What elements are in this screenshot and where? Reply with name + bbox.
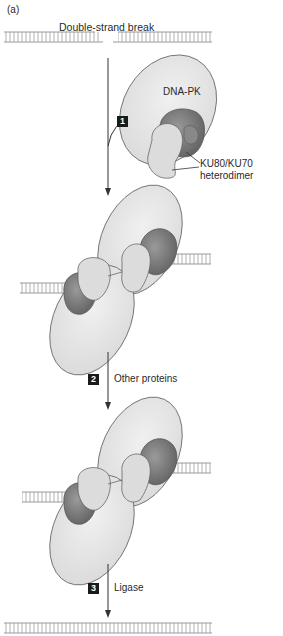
step-1-badge: 1: [117, 116, 128, 127]
step-3-badge: 3: [88, 583, 99, 594]
synapsis-complex-1: [20, 171, 211, 388]
ku-label-line2: heterodimer: [200, 170, 253, 181]
dna-broken-left: [4, 32, 103, 42]
step-2-badge: 2: [88, 374, 99, 385]
ku-label-line1: KU80/KU70: [200, 158, 253, 169]
dna-broken-right: [113, 32, 212, 42]
step-2-label: Other proteins: [114, 373, 177, 384]
step-3-label: Ligase: [114, 582, 143, 593]
panel-label: (a): [7, 4, 19, 15]
synapsis-complex-2: [22, 383, 211, 598]
dna-pk-label: DNA-PK: [163, 86, 201, 97]
figure-title: Double-strand break: [59, 21, 154, 33]
dna-repaired: [4, 623, 212, 633]
diagram-canvas: [0, 0, 283, 636]
